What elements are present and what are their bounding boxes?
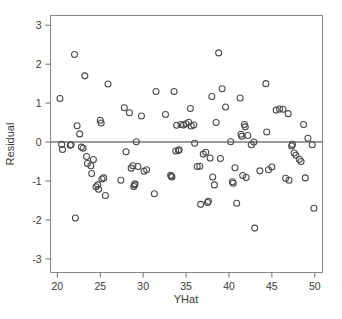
scatter-point [210, 174, 216, 180]
scatter-point [219, 86, 225, 92]
scatter-point [123, 149, 129, 155]
y-tick-label: 2 [36, 58, 42, 70]
scatter-point [213, 120, 219, 126]
residual-scatter-plot: 20253035404550 -3-2-10123 YHat Residual [0, 0, 342, 319]
scatter-point [198, 201, 204, 207]
scatter-point [211, 182, 217, 188]
scatter-point [171, 88, 177, 94]
scatter-point [237, 95, 243, 101]
y-tick-label: -2 [32, 214, 41, 226]
scatter-point [232, 165, 238, 171]
scatter-point [252, 225, 258, 231]
scatter-point [82, 73, 88, 79]
x-tick-label: 40 [223, 280, 235, 292]
scatter-point [301, 122, 307, 128]
scatter-point [138, 113, 144, 119]
scatter-point [80, 145, 86, 151]
scatter-point [239, 133, 245, 139]
scatter-point [263, 81, 269, 87]
scatter-point [77, 131, 83, 137]
plot-frame [51, 16, 323, 273]
scatter-points [57, 50, 317, 231]
scatter-point [273, 107, 279, 113]
x-tick-label: 30 [137, 280, 149, 292]
scatter-point [264, 129, 270, 135]
scatter-point [102, 192, 108, 198]
scatter-point [209, 93, 215, 99]
scatter-point [121, 105, 127, 111]
scatter-point [72, 215, 78, 221]
scatter-point [118, 177, 124, 183]
x-tick-label: 45 [266, 280, 278, 292]
y-axis-ticks [46, 25, 51, 259]
scatter-point [217, 155, 223, 161]
scatter-point [151, 191, 157, 197]
scatter-point [234, 200, 240, 206]
scatter-point [216, 50, 222, 56]
y-tick-label: -1 [32, 175, 41, 187]
scatter-point [311, 205, 317, 211]
scatter-point [192, 140, 198, 146]
scatter-point [302, 175, 308, 181]
y-tick-label: -3 [32, 253, 41, 265]
plot-canvas: 20253035404550 -3-2-10123 YHat Residual [0, 0, 342, 319]
scatter-point [84, 153, 90, 159]
scatter-point [207, 155, 213, 161]
scatter-point [257, 168, 263, 174]
scatter-point [153, 88, 159, 94]
scatter-point [187, 106, 193, 112]
scatter-point [223, 104, 229, 110]
y-tick-label: 3 [36, 19, 42, 31]
scatter-point [72, 51, 78, 57]
x-axis-ticks [57, 273, 314, 278]
scatter-point [126, 110, 132, 116]
y-tick-label: 0 [36, 136, 42, 148]
y-axis-tick-labels: -3-2-10123 [32, 19, 42, 265]
scatter-point [57, 95, 63, 101]
scatter-point [245, 132, 251, 138]
y-axis-label: Residual [4, 123, 16, 166]
scatter-point [89, 171, 95, 177]
x-tick-label: 35 [180, 280, 192, 292]
x-tick-label: 25 [94, 280, 106, 292]
x-axis-label: YHat [174, 293, 198, 305]
x-tick-label: 20 [52, 280, 64, 292]
scatter-point [105, 81, 111, 87]
scatter-point [101, 175, 107, 181]
scatter-point [305, 135, 311, 141]
y-tick-label: 1 [36, 97, 42, 109]
x-axis-tick-labels: 20253035404550 [52, 280, 321, 292]
scatter-point [74, 123, 80, 129]
scatter-point [285, 111, 291, 117]
scatter-point [162, 111, 168, 117]
x-tick-label: 50 [309, 280, 321, 292]
scatter-point [90, 157, 96, 163]
